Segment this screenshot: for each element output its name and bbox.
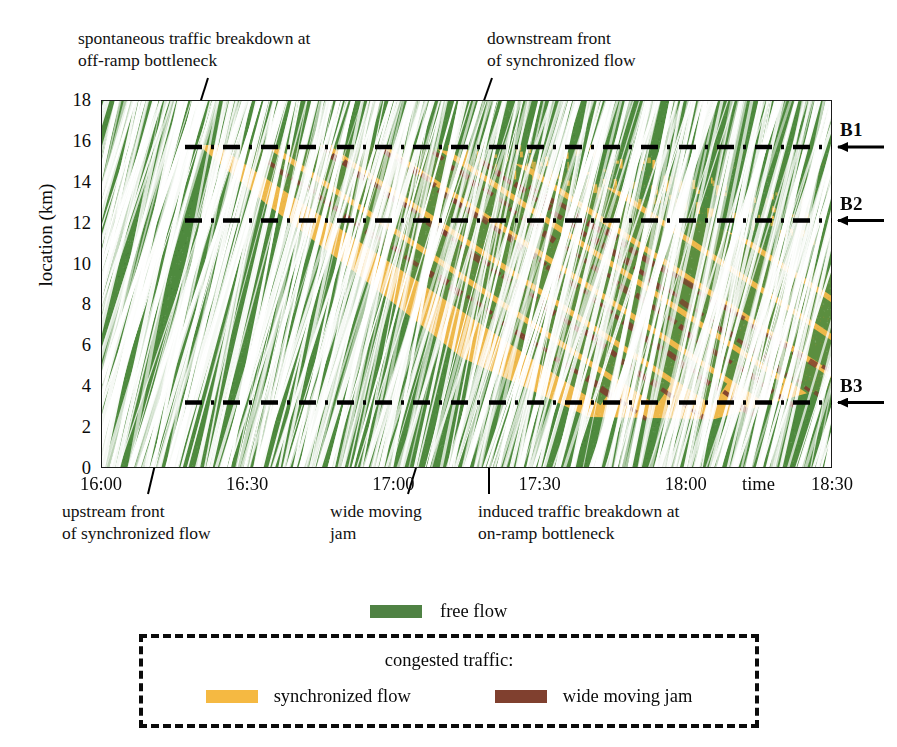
y-axis-tick-label: 2 bbox=[55, 417, 91, 438]
bottleneck-label-b2: B2 bbox=[840, 193, 863, 215]
legend-congested-box: congested traffic: synchronized flow wid… bbox=[139, 634, 759, 728]
traffic-pattern-canvas bbox=[101, 100, 832, 468]
annotation-downstream-front: downstream front of synchronized flow bbox=[487, 27, 636, 71]
annotation-wide-moving-jam: wide moving jam bbox=[330, 500, 422, 544]
legend-swatch-wide-moving-jam bbox=[495, 690, 547, 703]
traffic-spatiotemporal-figure: spontaneous traffic breakdown at off-ram… bbox=[0, 0, 897, 747]
y-axis-tick-label: 12 bbox=[55, 212, 91, 233]
x-axis-label: time bbox=[742, 474, 775, 495]
y-axis-tick-label: 16 bbox=[55, 130, 91, 151]
legend-free-flow: free flow bbox=[370, 601, 507, 622]
y-axis-tick-label: 8 bbox=[55, 294, 91, 315]
legend-congested-title: congested traffic: bbox=[143, 650, 755, 671]
plot-area bbox=[101, 100, 832, 468]
x-axis-tick-label: 18:30 bbox=[811, 474, 853, 495]
y-axis-tick-label: 10 bbox=[55, 253, 91, 274]
x-axis-tick-label: 17:30 bbox=[519, 474, 561, 495]
y-axis-tick-label: 14 bbox=[55, 171, 91, 192]
annotation-spontaneous-breakdown: spontaneous traffic breakdown at off-ram… bbox=[78, 27, 310, 71]
y-axis-tick-label: 4 bbox=[55, 376, 91, 397]
x-axis-tick-label: 16:30 bbox=[226, 474, 268, 495]
annotation-induced-breakdown: induced traffic breakdown at on-ramp bot… bbox=[478, 500, 679, 544]
annotation-upstream-front: upstream front of synchronized flow bbox=[62, 500, 211, 544]
y-axis-tick-label: 18 bbox=[55, 90, 91, 111]
legend-congested-items: synchronized flow wide moving jam bbox=[143, 686, 755, 707]
bottleneck-label-b1: B1 bbox=[840, 119, 863, 141]
y-axis-tick-label: 6 bbox=[55, 335, 91, 356]
legend-synchronized-flow: synchronized flow bbox=[206, 686, 411, 707]
legend-wide-moving-jam: wide moving jam bbox=[495, 686, 692, 707]
bottleneck-label-b3: B3 bbox=[840, 375, 863, 397]
x-axis-tick-label: 16:00 bbox=[80, 474, 122, 495]
legend-label-synchronized-flow: synchronized flow bbox=[274, 686, 411, 707]
legend-label-wide-moving-jam: wide moving jam bbox=[563, 686, 692, 707]
legend-swatch-free-flow bbox=[370, 605, 422, 618]
legend-label-free-flow: free flow bbox=[440, 601, 507, 622]
x-axis-tick-label: 18:00 bbox=[665, 474, 707, 495]
y-axis-label: location (km) bbox=[35, 145, 57, 325]
legend-swatch-synchronized-flow bbox=[206, 690, 258, 703]
x-axis-tick-label: 17:00 bbox=[372, 474, 414, 495]
